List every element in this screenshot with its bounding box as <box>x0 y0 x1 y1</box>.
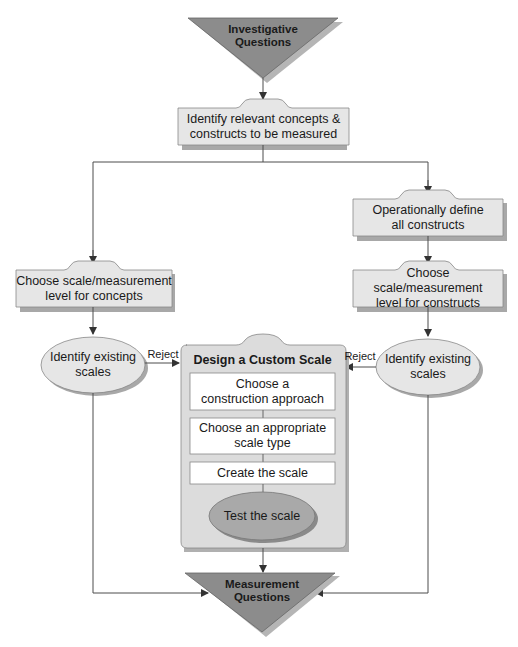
operationally-define-line1: Operationally define <box>372 203 483 218</box>
start-label-line1: Investigative <box>228 23 298 36</box>
step-create-scale-label: Create the scale <box>190 462 335 484</box>
choose-scale-concepts-line1: Choose scale/measurement <box>16 274 172 289</box>
choose-scale-constructs-label: Choose scale/measurement level for const… <box>353 270 503 307</box>
identify-concepts-line1: Identify relevant concepts & <box>187 112 341 127</box>
start-label: Investigative Questions <box>213 20 313 52</box>
test-scale-label: Test the scale <box>209 506 315 526</box>
identify-concepts-label: Identify relevant concepts & constructs … <box>178 108 349 145</box>
identify-existing-left-line1: Identify existing <box>50 350 136 365</box>
step-1-line2: construction approach <box>201 392 324 407</box>
operationally-define-line2: all constructs <box>392 218 465 233</box>
identify-existing-right-label: Identify existing scales <box>378 349 478 385</box>
flowchart-canvas <box>0 0 518 647</box>
step-scale-type-label: Choose an appropriate scale type <box>190 418 335 454</box>
step-2-line2: scale type <box>234 436 290 451</box>
step-construction-approach-label: Choose a construction approach <box>190 373 335 410</box>
identify-existing-right-line2: scales <box>410 367 445 382</box>
choose-scale-constructs-line1: Choose scale/measurement <box>353 266 503 296</box>
identify-existing-left-line2: scales <box>75 365 110 380</box>
identify-concepts-line2: constructs to be measured <box>190 127 337 142</box>
identify-existing-right-line1: Identify existing <box>385 352 471 367</box>
choose-scale-concepts-label: Choose scale/measurement level for conce… <box>16 270 172 307</box>
reject-left-label: Reject <box>145 347 181 361</box>
choose-scale-constructs-line2: level for constructs <box>376 296 480 311</box>
end-label-line1: Measurement <box>225 578 299 591</box>
end-label-line2: Questions <box>234 591 290 604</box>
step-1-line1: Choose a <box>236 377 290 392</box>
end-label: Measurement Questions <box>210 575 314 607</box>
step-2-line1: Choose an appropriate <box>199 421 326 436</box>
choose-scale-concepts-line2: level for concepts <box>45 289 142 304</box>
identify-existing-left-label: Identify existing scales <box>43 347 143 383</box>
start-label-line2: Questions <box>235 36 291 49</box>
reject-right-label: Reject <box>342 349 378 363</box>
operationally-define-label: Operationally define all constructs <box>353 199 503 236</box>
custom-scale-title: Design a Custom Scale <box>180 350 345 370</box>
